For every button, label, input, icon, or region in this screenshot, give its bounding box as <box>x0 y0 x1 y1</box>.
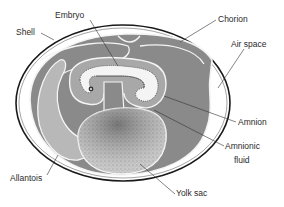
label-amnion: Amnion <box>238 118 267 127</box>
label-allantois: Allantois <box>10 174 42 183</box>
leader-shell <box>41 33 54 40</box>
leader-chorion <box>180 20 216 42</box>
label-chorion: Chorion <box>218 15 248 24</box>
label-shell: Shell <box>16 28 35 37</box>
label-embryo: Embryo <box>55 11 84 20</box>
label-amnionic-fluid-line1: Amnionic <box>225 142 260 151</box>
yolk-sac <box>78 108 166 174</box>
egg-diagram <box>0 0 284 207</box>
label-amnionic-fluid-line2: fluid <box>234 156 250 165</box>
label-yolk-sac: Yolk sac <box>176 189 207 198</box>
label-air-space: Air space <box>231 40 266 49</box>
leader-air-space <box>218 49 244 88</box>
